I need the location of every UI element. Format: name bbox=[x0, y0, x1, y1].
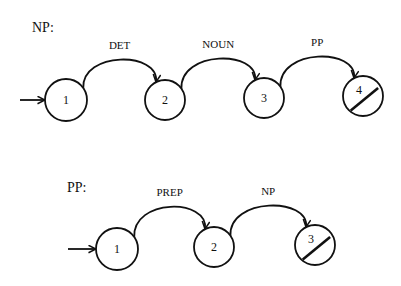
final-state-node: 4 bbox=[343, 76, 383, 116]
state-node: 3 bbox=[244, 78, 284, 118]
arc-label: NOUN bbox=[202, 38, 234, 50]
transition-network-diagram: NP:DETNOUNPP1234PP:PREPNP123 bbox=[0, 0, 401, 286]
state-label: 3 bbox=[261, 91, 267, 105]
state-label: 2 bbox=[211, 240, 217, 254]
transition-arc bbox=[280, 57, 354, 87]
network-title: NP: bbox=[32, 20, 54, 35]
state-node: 1 bbox=[45, 79, 87, 121]
transition-arc bbox=[181, 59, 255, 89]
state-label: 4 bbox=[356, 83, 362, 97]
state-node: 1 bbox=[96, 228, 138, 270]
arc-label: NP bbox=[261, 185, 275, 197]
transition-arc bbox=[230, 206, 306, 236]
state-node: 2 bbox=[194, 227, 234, 267]
network-np: NP:DETNOUNPP1234 bbox=[20, 20, 383, 121]
arc-label: PREP bbox=[156, 186, 182, 198]
transition-arc bbox=[83, 59, 156, 88]
arc-label: DET bbox=[109, 39, 131, 51]
arc-label: PP bbox=[311, 36, 323, 48]
state-node: 2 bbox=[145, 80, 185, 120]
state-label: 1 bbox=[63, 93, 69, 107]
state-label: 2 bbox=[162, 93, 168, 107]
state-label: 3 bbox=[308, 232, 314, 246]
state-circle-icon bbox=[295, 225, 335, 265]
network-pp: PP:PREPNP123 bbox=[67, 180, 335, 270]
state-circle-icon bbox=[343, 76, 383, 116]
final-state-node: 3 bbox=[295, 225, 335, 265]
network-title: PP: bbox=[67, 180, 86, 195]
transition-arc bbox=[134, 207, 205, 238]
state-label: 1 bbox=[114, 242, 120, 256]
